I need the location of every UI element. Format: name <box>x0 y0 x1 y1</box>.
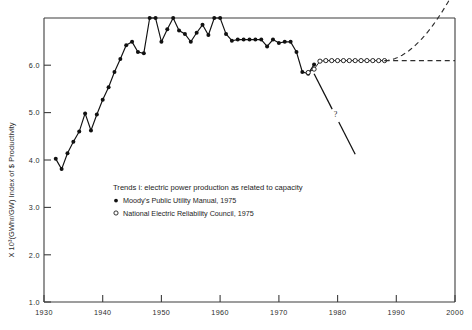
x-tick-label-1940: 1940 <box>94 308 112 317</box>
data-point <box>77 130 81 134</box>
data-point <box>89 128 93 132</box>
x-tick-label-1980: 1980 <box>329 308 347 317</box>
data-point <box>177 28 181 32</box>
data-point <box>365 59 369 63</box>
data-point <box>318 59 322 63</box>
data-point <box>124 43 128 47</box>
x-tick-label-1950: 1950 <box>153 308 171 317</box>
data-point <box>154 16 158 20</box>
data-point <box>60 167 64 171</box>
data-point <box>312 63 316 67</box>
legend-marker-moodys-icon <box>114 199 118 203</box>
data-point <box>83 111 87 115</box>
data-point <box>277 41 281 45</box>
y-tick-label-2: 2.0 <box>29 251 40 260</box>
data-point <box>371 59 375 63</box>
data-point <box>224 32 228 36</box>
data-point <box>189 40 193 44</box>
data-point <box>300 70 304 74</box>
x-tick-label-1930: 1930 <box>35 308 53 317</box>
data-point <box>136 50 140 54</box>
data-point <box>118 57 122 61</box>
data-point <box>341 59 345 63</box>
y-tick-label-4: 4.0 <box>29 156 40 165</box>
data-point <box>71 140 75 144</box>
data-point <box>259 38 263 42</box>
data-point <box>306 70 310 74</box>
data-point <box>165 27 169 31</box>
y-tick-label-3: 3.0 <box>29 203 40 212</box>
data-point <box>283 40 287 44</box>
data-point <box>330 59 334 63</box>
chart-figure: 6.0 5.0 4.0 3.0 2.0 1.0 1930 1940 1950 1… <box>0 0 472 330</box>
data-point <box>112 70 116 74</box>
data-point <box>265 44 269 48</box>
legend-label-moodys: Moody's Public Utility Manual, 1975 <box>123 196 236 205</box>
data-point <box>101 98 105 102</box>
data-point <box>271 38 275 42</box>
data-point <box>107 85 111 89</box>
data-point <box>206 33 210 37</box>
data-point <box>130 40 134 44</box>
x-axis-tick-labels: 1930 1940 1950 1960 1970 1980 1990 2000 <box>35 308 464 317</box>
data-point <box>377 59 381 63</box>
data-point <box>359 59 363 63</box>
y-tick-label-1: 1.0 <box>29 298 40 307</box>
y-axis-tick-labels: 6.0 5.0 4.0 3.0 2.0 1.0 <box>29 61 40 307</box>
y-tick-label-6: 6.0 <box>29 61 40 70</box>
data-point <box>289 40 293 44</box>
data-point <box>230 39 234 43</box>
electric-power-productivity-chart: 6.0 5.0 4.0 3.0 2.0 1.0 1930 1940 1950 1… <box>0 0 472 330</box>
data-point <box>335 59 339 63</box>
x-tick-label-1970: 1970 <box>270 308 288 317</box>
data-point <box>324 59 328 63</box>
data-point <box>253 38 257 42</box>
data-point <box>65 151 69 155</box>
data-point <box>353 59 357 63</box>
y-axis-title: X 10³(GWhr/GW) Index of $ Productivity <box>7 122 16 257</box>
data-point <box>183 32 187 36</box>
data-point <box>218 16 222 20</box>
data-point <box>212 16 216 20</box>
x-tick-label-1990: 1990 <box>388 308 406 317</box>
x-tick-label-1960: 1960 <box>211 308 229 317</box>
x-tick-label-2000: 2000 <box>446 308 464 317</box>
legend-label-nerc: National Electric Reliability Council, 1… <box>123 209 254 218</box>
y-tick-label-5: 5.0 <box>29 108 40 117</box>
legend-marker-nerc-icon <box>114 211 118 215</box>
question-mark-annotation: ? <box>334 110 338 119</box>
data-point <box>236 38 240 42</box>
data-point <box>148 16 152 20</box>
data-point <box>312 67 316 71</box>
data-point <box>54 157 58 161</box>
data-point <box>95 113 99 117</box>
data-point <box>171 16 175 20</box>
data-point <box>248 38 252 42</box>
data-point <box>294 50 298 54</box>
data-point <box>142 51 146 55</box>
data-point <box>195 31 199 35</box>
data-point <box>242 38 246 42</box>
data-point <box>201 23 205 27</box>
data-point <box>347 59 351 63</box>
legend-title: Trends i: electric power production as r… <box>113 183 303 192</box>
data-point <box>159 40 163 44</box>
